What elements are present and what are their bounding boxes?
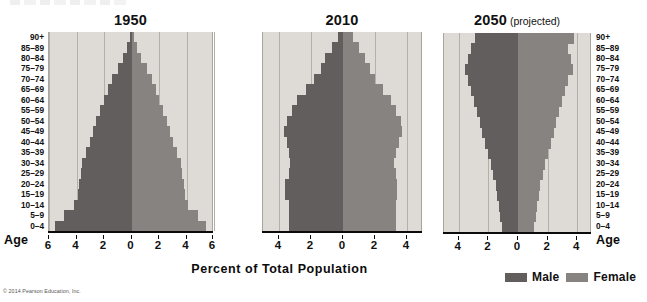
age-group-label: 30–34 [596,159,619,167]
female-bar [343,53,365,64]
age-group-label: 50–54 [21,117,44,125]
female-bar [343,63,370,74]
pyramid-row [263,168,421,179]
male-bar [123,53,131,64]
male-bar [108,84,131,95]
x-tick-label: 2 [307,239,313,251]
pyramid-row [263,53,421,64]
age-axis-label-right: Age [596,233,620,247]
female-bar [343,200,396,211]
female-bar [132,189,186,200]
male-bar [306,84,343,95]
pyramid-row [444,54,590,65]
male-bar [332,42,343,53]
age-group-label: 55–59 [21,106,44,114]
legend-item-male: Male [505,270,559,284]
female-bar [343,179,397,190]
female-bar [518,117,556,128]
age-group-label: 15–19 [21,190,44,198]
pyramid-row [49,137,212,148]
pyramid-row [49,179,212,190]
x-tick-label: 6 [45,239,51,251]
female-bar [518,96,562,107]
age-group-label: 45–49 [596,127,619,135]
male-bar [285,179,343,190]
pyramid-row [444,138,590,149]
pyramid-panel-2050: 2050 (projected)42024 [443,12,591,254]
plot-area [48,32,213,231]
legend: Male Female [505,270,636,284]
female-bar [343,158,394,169]
age-group-label: 15–19 [596,190,619,198]
male-bar [100,105,132,116]
female-bar [132,74,153,85]
female-bar [343,42,359,53]
male-bar [104,95,132,106]
plot-area [443,33,591,232]
x-tick-label: 2 [155,239,161,251]
x-tick-label: 2 [484,240,490,252]
male-bar [289,200,343,211]
age-labels-right: 90+85–8980–8475–7970–7465–6960–6455–5950… [596,32,646,231]
age-group-label: 85–89 [21,44,44,52]
pyramid-row [444,75,590,86]
pyramid-row [263,179,421,190]
pyramid-row [49,32,212,43]
age-group-label: 75–79 [596,64,619,72]
male-bar [468,75,518,86]
pyramid-row [263,95,421,106]
male-bar [471,85,518,96]
female-bar [518,106,559,117]
pyramid-row [49,221,212,232]
age-group-label: 70–74 [21,75,44,83]
male-bar [74,200,132,211]
pyramid-row [444,180,590,191]
female-bar [518,127,554,138]
male-bar [79,179,131,190]
plot-area [262,32,422,231]
male-bar [497,190,518,201]
panel-title-year: 2050 [474,12,507,28]
pyramid-row [263,126,421,137]
pyramid-row [49,95,212,106]
female-bar [343,32,353,43]
female-bar [518,85,565,96]
female-bar [132,95,160,106]
pyramid-row [444,96,590,107]
pyramid-row [49,53,212,64]
pyramid-row [263,221,421,232]
female-bar [343,116,401,127]
male-bar [465,64,518,75]
panel-title: 2050 (projected) [443,12,591,29]
age-group-label: 70–74 [596,75,619,83]
male-bar [477,106,518,117]
male-bar [93,126,132,137]
male-bar [488,148,518,159]
age-group-label: 35–39 [596,148,619,156]
male-bar [118,63,132,74]
male-bar [471,43,518,54]
male-bar [90,137,131,148]
age-group-label: 20–24 [596,180,619,188]
pyramid-row [444,64,590,75]
age-group-label: 35–39 [21,148,44,156]
male-bar [287,137,343,148]
age-group-label: 25–29 [596,169,619,177]
male-bar [482,127,518,138]
age-group-label: 55–59 [596,106,619,114]
male-bar [289,210,343,221]
female-bar [343,189,397,200]
female-bar [343,95,391,106]
male-bar [321,63,343,74]
female-bar [343,168,396,179]
male-bar [325,53,343,64]
legend-label-male: Male [532,270,559,284]
male-bar [491,159,518,170]
x-tick-label: 4 [403,239,409,251]
x-tick-label: 4 [573,240,579,252]
female-bar [132,137,173,148]
female-bar [132,84,157,95]
male-bar [468,54,518,65]
pyramid-row [263,105,421,116]
male-bar [499,201,518,212]
